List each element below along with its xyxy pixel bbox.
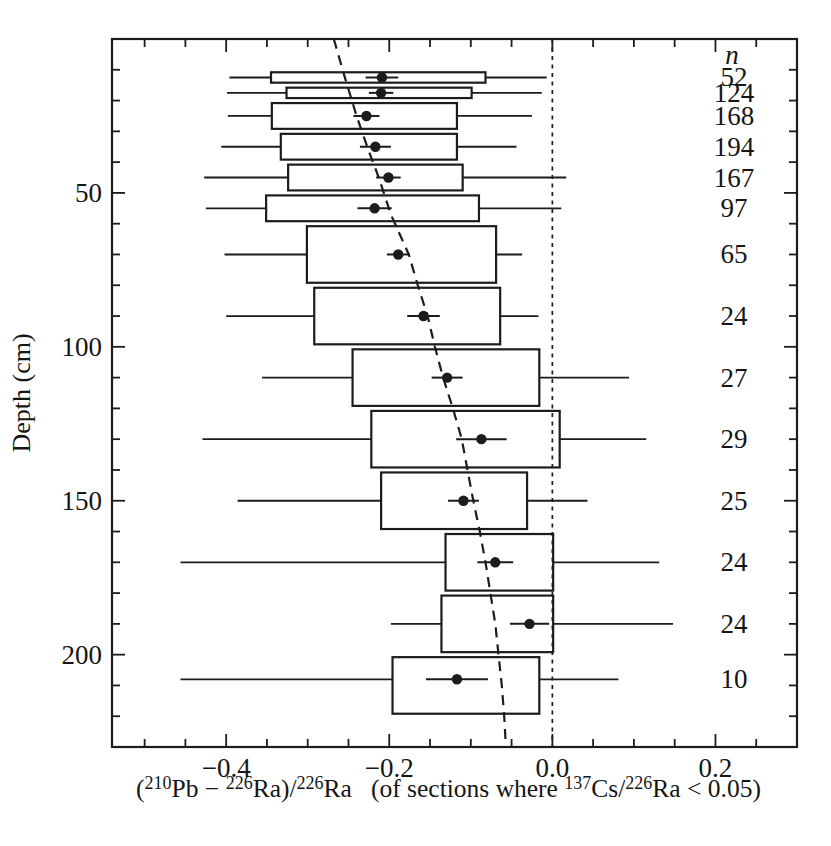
n-count-label: 25 <box>721 486 748 516</box>
y-tick-label: 100 <box>62 332 103 362</box>
n-count-label: 194 <box>714 132 755 162</box>
n-count-label: 24 <box>721 609 749 639</box>
n-count-label: 24 <box>721 547 749 577</box>
mean-dot <box>361 111 371 121</box>
mean-dot <box>369 203 379 213</box>
mean-dot <box>458 496 468 506</box>
mean-dot <box>490 557 500 567</box>
mean-dot <box>442 372 452 382</box>
chart-svg: 50100150200−0.4−0.20.00.2n52124168194167… <box>0 0 831 846</box>
mean-dot <box>524 619 534 629</box>
n-count-label: 97 <box>721 193 748 223</box>
mean-dot <box>383 172 393 182</box>
x-axis-label: (210Pb − 226Ra)/226Ra (of sections where… <box>136 773 761 803</box>
mean-dot <box>418 311 428 321</box>
n-count-label: 24 <box>721 301 749 331</box>
n-count-label: 65 <box>721 239 748 269</box>
mean-dot <box>370 142 380 152</box>
n-count-label: 167 <box>714 163 755 193</box>
y-tick-label: 150 <box>62 486 103 516</box>
mean-dot <box>452 674 462 684</box>
mean-dot <box>376 88 386 98</box>
y-axis-label: Depth (cm) <box>7 333 36 452</box>
y-tick-label: 50 <box>75 178 102 208</box>
mean-dot <box>476 434 486 444</box>
mean-dot <box>393 249 403 259</box>
n-count-label: 168 <box>714 101 755 131</box>
n-count-label: 10 <box>721 664 748 694</box>
mean-dot <box>377 72 387 82</box>
box-iqr-rect <box>393 657 540 714</box>
boxplot-figure: 50100150200−0.4−0.20.00.2n52124168194167… <box>0 0 831 846</box>
y-tick-label: 200 <box>62 640 103 670</box>
n-count-label: 29 <box>721 424 748 454</box>
n-count-label: 27 <box>721 363 748 393</box>
